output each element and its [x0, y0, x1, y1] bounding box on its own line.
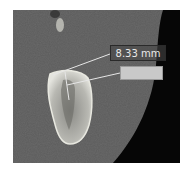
annotation-box — [120, 66, 163, 80]
measurement-label: 8.33 mm — [110, 45, 166, 61]
ct-image-panel: 8.33 mm — [13, 10, 180, 163]
ct-scan-graphic — [13, 10, 180, 163]
